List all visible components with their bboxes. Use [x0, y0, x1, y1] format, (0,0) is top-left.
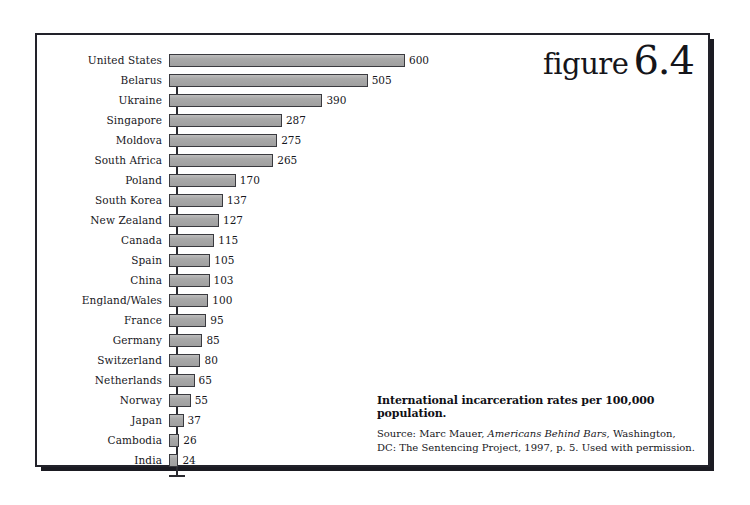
- bar-category-label: Singapore: [59, 114, 169, 126]
- chart-row: Switzerland80: [59, 350, 439, 370]
- chart-row: Poland170: [59, 170, 439, 190]
- bar-category-label: Canada: [59, 234, 169, 246]
- bar: [169, 194, 223, 207]
- bar: [169, 294, 208, 307]
- bar-cell: 80: [169, 350, 439, 370]
- bar-value-label: 26: [183, 434, 196, 446]
- bar: [169, 254, 210, 267]
- chart-row: China103: [59, 270, 439, 290]
- bar-value-label: 137: [227, 194, 247, 206]
- bar: [169, 114, 282, 127]
- chart-row: New Zealand127: [59, 210, 439, 230]
- bar-cell: 65: [169, 370, 439, 390]
- bar-cell: 115: [169, 230, 439, 250]
- bar: [169, 174, 236, 187]
- axis-tick-bottom: [169, 475, 185, 477]
- bar-value-label: 85: [206, 334, 219, 346]
- chart-row: Netherlands65: [59, 370, 439, 390]
- bar-category-label: New Zealand: [59, 214, 169, 226]
- bar-cell: 275: [169, 130, 439, 150]
- bar-value-label: 80: [204, 354, 217, 366]
- bar-category-label: Switzerland: [59, 354, 169, 366]
- bar: [169, 434, 179, 447]
- bar-category-label: United States: [59, 54, 169, 66]
- bar-value-label: 105: [214, 254, 234, 266]
- caption-title: International incarceration rates per 10…: [377, 394, 697, 420]
- bar-cell: 600: [169, 50, 439, 70]
- chart-row: Singapore287: [59, 110, 439, 130]
- bar-cell: 287: [169, 110, 439, 130]
- chart-row: England/Wales100: [59, 290, 439, 310]
- bar-category-label: France: [59, 314, 169, 326]
- bar: [169, 334, 202, 347]
- bar-cell: 170: [169, 170, 439, 190]
- bar-category-label: Germany: [59, 334, 169, 346]
- bar: [169, 54, 405, 67]
- bar-category-label: Spain: [59, 254, 169, 266]
- bar-category-label: Cambodia: [59, 434, 169, 446]
- bar-category-label: Japan: [59, 414, 169, 426]
- bar: [169, 454, 178, 467]
- bar-category-label: Norway: [59, 394, 169, 406]
- bar: [169, 274, 210, 287]
- bar-value-label: 100: [212, 294, 232, 306]
- bar-cell: 505: [169, 70, 439, 90]
- bar-category-label: Netherlands: [59, 374, 169, 386]
- bar: [169, 234, 214, 247]
- chart-row: South Korea137: [59, 190, 439, 210]
- bar-cell: 265: [169, 150, 439, 170]
- bar-value-label: 170: [240, 174, 260, 186]
- bar-category-label: Belarus: [59, 74, 169, 86]
- bar-value-label: 390: [326, 94, 346, 106]
- bar-value-label: 55: [195, 394, 208, 406]
- bar-category-label: India: [59, 454, 169, 466]
- chart-row: South Africa265: [59, 150, 439, 170]
- source-book-title: Americans Behind Bars: [488, 428, 607, 439]
- bar-value-label: 287: [286, 114, 306, 126]
- bar-category-label: South Korea: [59, 194, 169, 206]
- bar-value-label: 37: [188, 414, 201, 426]
- bar: [169, 314, 206, 327]
- bar-category-label: Poland: [59, 174, 169, 186]
- chart-row: Moldova275: [59, 130, 439, 150]
- bar: [169, 374, 195, 387]
- bar-category-label: Ukraine: [59, 94, 169, 106]
- bar-cell: 127: [169, 210, 439, 230]
- chart-row: United States600: [59, 50, 439, 70]
- chart-row: Belarus505: [59, 70, 439, 90]
- bar: [169, 134, 277, 147]
- chart-row: Ukraine390: [59, 90, 439, 110]
- bar-category-label: England/Wales: [59, 294, 169, 306]
- figure-frame: figure 6.4 United States600Belarus505Ukr…: [35, 33, 710, 467]
- bar: [169, 394, 191, 407]
- bar-cell: 137: [169, 190, 439, 210]
- bar: [169, 214, 219, 227]
- bar-value-label: 65: [199, 374, 212, 386]
- bar-cell: 390: [169, 90, 439, 110]
- bar-value-label: 265: [277, 154, 297, 166]
- bar: [169, 94, 322, 107]
- bar-cell: 100: [169, 290, 439, 310]
- bar-category-label: China: [59, 274, 169, 286]
- chart-row: France95: [59, 310, 439, 330]
- bar: [169, 74, 368, 87]
- chart-row: Spain105: [59, 250, 439, 270]
- bar-cell: 105: [169, 250, 439, 270]
- bar-cell: 85: [169, 330, 439, 350]
- bar-value-label: 115: [218, 234, 238, 246]
- bar-value-label: 505: [372, 74, 392, 86]
- bar-cell: 103: [169, 270, 439, 290]
- bar-category-label: Moldova: [59, 134, 169, 146]
- bar: [169, 354, 200, 367]
- bar: [169, 154, 273, 167]
- bar-category-label: South Africa: [59, 154, 169, 166]
- caption-source: Source: Marc Mauer, Americans Behind Bar…: [377, 427, 697, 455]
- bar-cell: 95: [169, 310, 439, 330]
- source-prefix: Source: Marc Mauer,: [377, 428, 488, 439]
- bar-value-label: 24: [182, 454, 195, 466]
- chart-row: Canada115: [59, 230, 439, 250]
- chart-row: Germany85: [59, 330, 439, 350]
- bar-value-label: 275: [281, 134, 301, 146]
- bar-value-label: 95: [210, 314, 223, 326]
- bar: [169, 414, 184, 427]
